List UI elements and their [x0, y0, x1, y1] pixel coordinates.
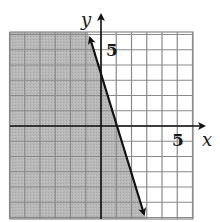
y-axis-label: y: [80, 9, 92, 30]
inequality-graph: y 5 5 x: [0, 0, 220, 222]
x-tick-label-5: 5: [172, 130, 184, 150]
y-tick-label-5: 5: [106, 40, 118, 60]
x-axis-label: x: [202, 129, 212, 150]
